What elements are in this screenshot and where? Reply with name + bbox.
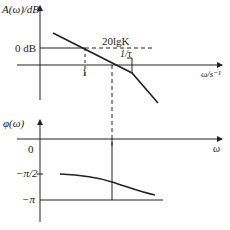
gain-label: 20lgK [102, 36, 130, 47]
magnitude-y-axis-label: A(ω)/dB [2, 4, 39, 15]
phase-zero-label: 0 [28, 144, 34, 155]
corner-frequency-label: 1/τ [120, 49, 131, 59]
phase-y-axis-label: φ(ω) [3, 118, 24, 129]
phase-curve [60, 174, 155, 195]
zero-db-label: 0 dB [15, 43, 36, 54]
magnitude-x-axis-label: ω/s⁻¹ [201, 70, 221, 79]
minus-half-pi-label: −π/2 [16, 168, 38, 179]
minus-pi-label: −π [22, 194, 35, 205]
phase-axes [17, 120, 222, 222]
omega-one-label: 1 [82, 68, 87, 78]
phase-x-axis-label: ω [213, 144, 220, 154]
bode-diagram: A(ω)/dB 0 dB 1 20lgK 1/τ ω/s⁻¹ φ(ω) ω 0 … [0, 0, 230, 230]
